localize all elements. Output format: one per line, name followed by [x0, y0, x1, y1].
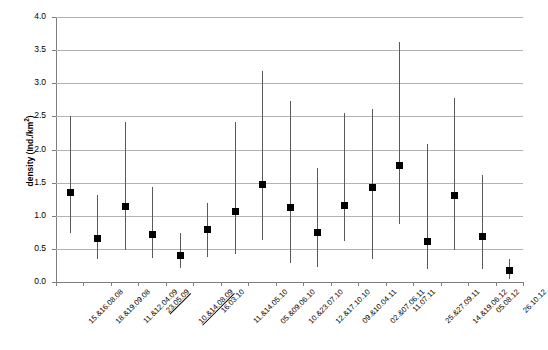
data-point-marker	[506, 267, 513, 274]
data-point-marker	[177, 252, 184, 259]
y-tick-mark	[52, 17, 56, 18]
y-tick-label: 0.0	[12, 277, 46, 286]
x-tick-mark	[523, 282, 524, 286]
x-tick-mark	[358, 282, 359, 286]
x-axis-line	[56, 282, 524, 283]
data-point-marker	[122, 203, 129, 210]
plot-area	[56, 17, 523, 282]
x-tick-mark	[413, 282, 414, 286]
x-tick-mark	[248, 282, 249, 286]
x-tick-mark	[468, 282, 469, 286]
error-bar	[317, 168, 318, 267]
data-point-marker	[424, 238, 431, 245]
y-tick-mark	[52, 183, 56, 184]
data-point-marker	[149, 231, 156, 238]
error-bar	[97, 195, 98, 259]
x-tick-mark	[303, 282, 304, 286]
data-point-marker	[67, 189, 74, 196]
data-point-marker	[204, 226, 211, 233]
data-point-marker	[396, 162, 403, 169]
x-tick-mark	[331, 282, 332, 286]
error-bar	[427, 144, 428, 269]
x-tick-mark	[496, 282, 497, 286]
x-tick-mark	[441, 282, 442, 286]
y-tick-label: 0.5	[12, 244, 46, 253]
y-tick-label: 3.5	[12, 45, 46, 54]
x-tick-mark	[56, 282, 57, 286]
x-tick-mark	[166, 282, 167, 286]
gridline	[56, 50, 523, 51]
error-bar	[454, 98, 455, 249]
y-tick-mark	[52, 150, 56, 151]
x-tick-mark	[83, 282, 84, 286]
x-tick-mark	[386, 282, 387, 286]
error-bar	[152, 187, 153, 259]
y-tick-mark	[52, 216, 56, 217]
y-tick-mark	[52, 50, 56, 51]
error-bar	[344, 113, 345, 241]
error-bar	[180, 233, 181, 268]
y-tick-label: 4.0	[12, 12, 46, 21]
y-tick-mark	[52, 249, 56, 250]
y-tick-label: 2.0	[12, 145, 46, 154]
data-point-marker	[479, 233, 486, 240]
x-tick-mark	[193, 282, 194, 286]
data-point-marker	[259, 181, 266, 188]
x-tick-label: 26.10.12	[522, 288, 548, 315]
y-tick-label: 1.0	[12, 211, 46, 220]
y-tick-label: 2.5	[12, 111, 46, 120]
gridline	[56, 83, 523, 84]
data-point-marker	[451, 192, 458, 199]
y-tick-label: 1.5	[12, 178, 46, 187]
data-point-marker	[314, 229, 321, 236]
error-bar	[235, 122, 236, 253]
data-point-marker	[94, 235, 101, 242]
error-bar	[399, 42, 400, 224]
y-tick-mark	[52, 83, 56, 84]
data-point-marker	[341, 202, 348, 209]
data-point-marker	[232, 208, 239, 215]
gridline	[56, 17, 523, 18]
error-bar	[290, 101, 291, 263]
y-tick-mark	[52, 116, 56, 117]
data-point-marker	[287, 204, 294, 211]
error-bar	[125, 122, 126, 250]
x-tick-mark	[221, 282, 222, 286]
x-tick-mark	[111, 282, 112, 286]
error-bar	[482, 175, 483, 269]
error-bar	[70, 116, 71, 233]
data-point-marker	[369, 184, 376, 191]
error-bar	[262, 71, 263, 240]
y-tick-label: 3.0	[12, 78, 46, 87]
x-tick-mark	[276, 282, 277, 286]
x-tick-mark	[138, 282, 139, 286]
